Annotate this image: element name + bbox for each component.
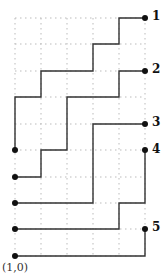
lattice-path-5 bbox=[15, 229, 145, 256]
endpoint-dot bbox=[12, 174, 18, 180]
diagram-canvas bbox=[0, 0, 167, 279]
path-label-2: 2 bbox=[152, 63, 160, 75]
endpoint-dot bbox=[12, 147, 18, 153]
lattice-path-3 bbox=[15, 124, 145, 203]
path-label-3: 3 bbox=[152, 116, 160, 128]
endpoint-dot bbox=[142, 15, 148, 21]
endpoint-dot bbox=[142, 121, 148, 127]
lattice-path-diagram: 12345 (1,0) bbox=[0, 0, 167, 279]
endpoint-dot bbox=[142, 226, 148, 232]
origin-label: (1,0) bbox=[2, 262, 28, 273]
endpoint-dot bbox=[12, 253, 18, 259]
endpoint-dot bbox=[142, 68, 148, 74]
path-label-4: 4 bbox=[152, 143, 160, 155]
endpoint-dots bbox=[12, 15, 148, 259]
path-label-1: 1 bbox=[152, 10, 160, 22]
lattice-paths bbox=[15, 18, 145, 256]
endpoint-dot bbox=[12, 200, 18, 206]
dotted-grid bbox=[15, 18, 145, 256]
lattice-path-4 bbox=[15, 150, 145, 229]
lattice-path-1 bbox=[15, 18, 145, 150]
path-label-5: 5 bbox=[152, 221, 160, 233]
endpoint-dot bbox=[142, 147, 148, 153]
endpoint-dot bbox=[12, 226, 18, 232]
